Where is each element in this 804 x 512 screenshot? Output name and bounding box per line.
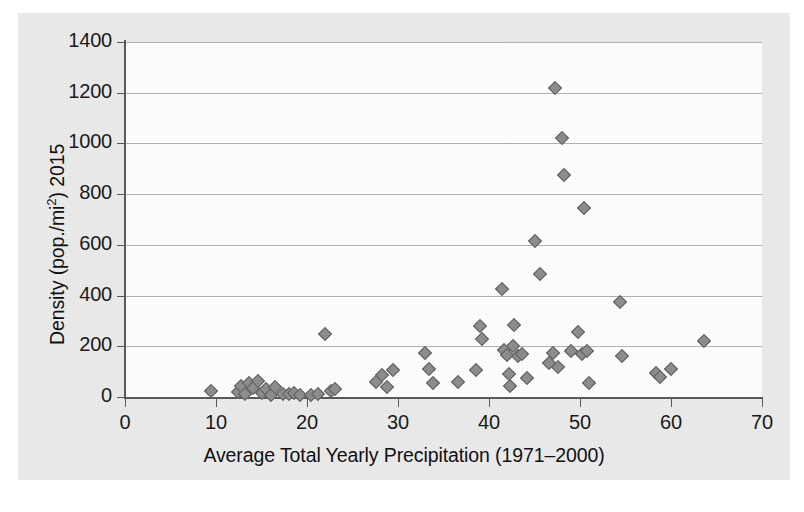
x-tick-50 xyxy=(580,399,581,407)
y-tick-0 xyxy=(117,397,124,398)
y-tick-1200 xyxy=(117,93,124,94)
y-tick-400 xyxy=(117,296,124,297)
y-tick-600 xyxy=(117,245,124,246)
y-tick-1000 xyxy=(117,143,124,144)
y-axis-line xyxy=(124,40,126,398)
gridline-y-1200 xyxy=(125,93,762,94)
figure-panel: 0200400600800100012001400010203040506070… xyxy=(18,13,790,480)
x-tick-10 xyxy=(216,399,217,407)
y-tick-800 xyxy=(117,194,124,195)
gridline-y-1000 xyxy=(125,143,762,144)
y-tick-label-1000: 1000 xyxy=(68,130,112,153)
x-tick-30 xyxy=(398,399,399,407)
x-tick-label-50: 50 xyxy=(550,411,610,434)
plot-area xyxy=(125,42,762,397)
gridline-y-200 xyxy=(125,346,762,347)
x-tick-60 xyxy=(671,399,672,407)
gridline-y-1400 xyxy=(125,42,762,43)
x-tick-label-70: 70 xyxy=(732,411,792,434)
x-tick-70 xyxy=(762,399,763,407)
gridline-y-800 xyxy=(125,194,762,195)
y-tick-label-800: 800 xyxy=(79,181,112,204)
y-tick-label-1200: 1200 xyxy=(68,80,112,103)
y-tick-label-200: 200 xyxy=(79,333,112,356)
x-tick-20 xyxy=(307,399,308,407)
x-tick-0 xyxy=(125,399,126,407)
x-axis-title: Average Total Yearly Precipitation (1971… xyxy=(18,444,790,467)
gridline-y-400 xyxy=(125,296,762,297)
y-tick-label-600: 600 xyxy=(79,232,112,255)
x-axis-line xyxy=(124,397,763,399)
x-tick-40 xyxy=(489,399,490,407)
x-tick-label-0: 0 xyxy=(95,411,155,434)
x-tick-label-30: 30 xyxy=(368,411,428,434)
gridline-y-600 xyxy=(125,245,762,246)
x-tick-label-60: 60 xyxy=(641,411,701,434)
y-tick-label-400: 400 xyxy=(79,283,112,306)
y-axis-title: Density (pop./mi2) 2015 xyxy=(44,143,69,344)
x-tick-label-40: 40 xyxy=(459,411,519,434)
x-tick-label-20: 20 xyxy=(277,411,337,434)
y-tick-200 xyxy=(117,346,124,347)
y-tick-label-1400: 1400 xyxy=(68,29,112,52)
y-tick-1400 xyxy=(117,42,124,43)
y-tick-label-0: 0 xyxy=(101,384,112,407)
x-tick-label-10: 10 xyxy=(186,411,246,434)
